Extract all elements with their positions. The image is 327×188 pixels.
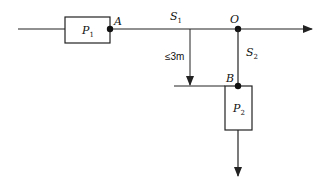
diagram-canvas: P1 A S1 O S2 ≤3m B P2	[0, 0, 327, 188]
label-a: A	[113, 15, 122, 28]
point-b	[235, 83, 241, 89]
label-s2: S2	[246, 46, 258, 61]
label-b: B	[225, 72, 234, 85]
label-s1: S1	[170, 10, 182, 25]
point-a	[107, 26, 113, 32]
distance-label: ≤3m	[165, 51, 184, 62]
label-o: O	[230, 13, 239, 26]
